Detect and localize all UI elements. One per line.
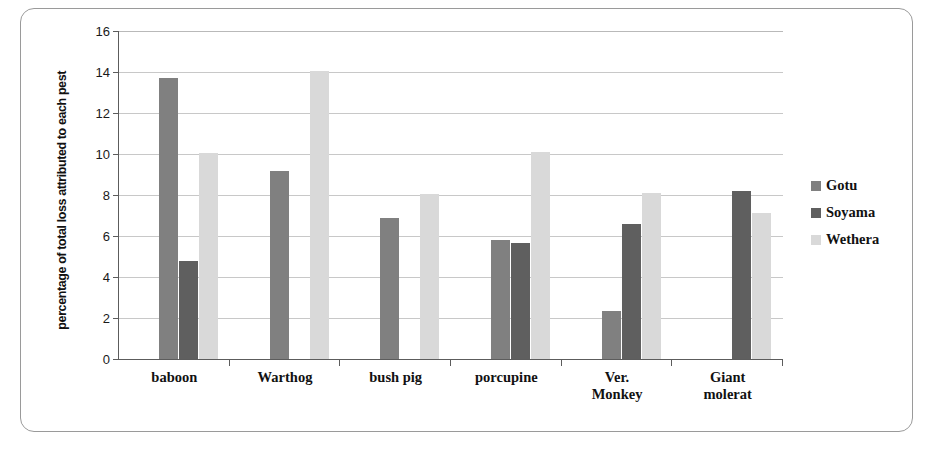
legend-label: Gotu bbox=[826, 177, 857, 194]
bar-soyama-giant-molerat[interactable] bbox=[732, 191, 751, 359]
legend-item-gotu[interactable]: Gotu bbox=[811, 172, 906, 199]
legend-label: Wethera bbox=[826, 231, 879, 248]
legend-swatch-wethera bbox=[811, 235, 821, 245]
bar-group-warthog bbox=[230, 31, 341, 359]
bar-group-porcupine bbox=[451, 31, 562, 359]
x-axis-labels: baboonWarthogbush pigporcupineVer.Monkey… bbox=[119, 365, 783, 423]
y-axis-tick-label: 6 bbox=[103, 229, 110, 244]
bar-gotu-porcupine[interactable] bbox=[491, 240, 510, 359]
y-axis-tick-label: 10 bbox=[96, 147, 110, 162]
y-axis-tick-label: 12 bbox=[96, 106, 110, 121]
legend-item-wethera[interactable]: Wethera bbox=[811, 226, 906, 253]
chart-figure: percentage of total loss attributed to e… bbox=[20, 8, 913, 432]
bar-gotu-ver-monkey[interactable] bbox=[602, 311, 621, 359]
y-axis-tick-label: 14 bbox=[96, 65, 110, 80]
y-axis-title: percentage of total loss attributed to e… bbox=[43, 35, 83, 365]
bar-group-giant-molerat bbox=[672, 31, 783, 359]
x-axis-label-bush-pig: bush pig bbox=[340, 365, 451, 423]
x-axis-label-warthog: Warthog bbox=[230, 365, 341, 423]
bar-groups bbox=[119, 31, 783, 359]
y-axis-tick-label: 16 bbox=[96, 24, 110, 39]
y-axis-tick-label: 4 bbox=[103, 270, 110, 285]
plot-area: 0246810121416 bbox=[119, 31, 783, 359]
chart-legend: GotuSoyamaWethera bbox=[811, 172, 906, 253]
bar-wethera-baboon[interactable] bbox=[199, 153, 218, 359]
bar-group-bush-pig bbox=[340, 31, 451, 359]
x-axis-label-porcupine: porcupine bbox=[451, 365, 562, 423]
x-axis-label-ver-monkey: Ver.Monkey bbox=[562, 365, 673, 423]
bar-wethera-porcupine[interactable] bbox=[531, 152, 550, 359]
legend-swatch-soyama bbox=[811, 208, 821, 218]
bar-soyama-ver-monkey[interactable] bbox=[622, 224, 641, 359]
bar-wethera-bush-pig[interactable] bbox=[420, 194, 439, 359]
bar-soyama-porcupine[interactable] bbox=[511, 243, 530, 359]
plot-inner: 0246810121416 bbox=[119, 31, 783, 359]
x-axis-label-baboon: baboon bbox=[119, 365, 230, 423]
bar-gotu-baboon[interactable] bbox=[159, 78, 178, 359]
bar-gotu-bush-pig[interactable] bbox=[380, 218, 399, 359]
bar-group-ver-monkey bbox=[562, 31, 673, 359]
bar-wethera-warthog[interactable] bbox=[310, 71, 329, 359]
bar-soyama-baboon[interactable] bbox=[179, 261, 198, 359]
y-axis-tick-label: 8 bbox=[103, 188, 110, 203]
legend-item-soyama[interactable]: Soyama bbox=[811, 199, 906, 226]
bar-gotu-warthog[interactable] bbox=[270, 171, 289, 359]
legend-label: Soyama bbox=[826, 204, 875, 221]
y-axis-tick-label: 0 bbox=[103, 352, 110, 367]
legend-swatch-gotu bbox=[811, 181, 821, 191]
bar-wethera-giant-molerat[interactable] bbox=[752, 213, 771, 359]
bar-wethera-ver-monkey[interactable] bbox=[642, 193, 661, 359]
y-axis-tick-label: 2 bbox=[103, 311, 110, 326]
y-axis-title-text: percentage of total loss attributed to e… bbox=[55, 71, 71, 330]
y-axis-tick bbox=[113, 359, 119, 360]
x-axis-label-giant-molerat: Giantmolerat bbox=[672, 365, 783, 423]
bar-group-baboon bbox=[119, 31, 230, 359]
